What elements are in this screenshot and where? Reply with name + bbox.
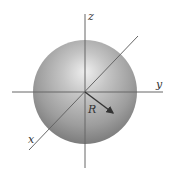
z-axis-label: z: [87, 10, 94, 23]
radius-label: R: [87, 103, 96, 116]
sphere-diagram: z y x R: [0, 0, 171, 172]
sphere-diagram-canvas: z y x R: [0, 0, 171, 172]
x-axis-label: x: [28, 133, 35, 146]
y-axis-label: y: [155, 78, 163, 91]
